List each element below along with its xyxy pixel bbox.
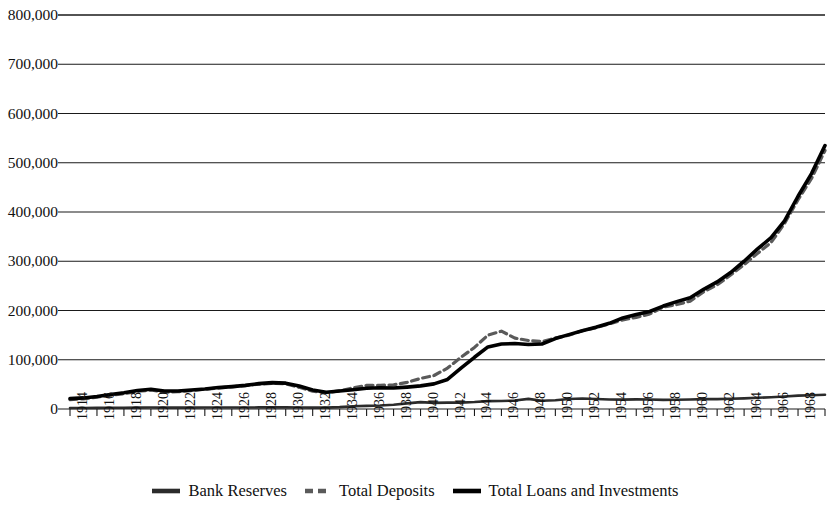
x-tick-label-1916: 1916 [103, 392, 117, 420]
x-tick-label-1958: 1958 [669, 392, 683, 420]
y-tick-label-600000: 600,000 [0, 106, 58, 122]
x-tick-label-1926: 1926 [238, 392, 252, 420]
line-chart: 800,000700,000600,000500,000400,000300,0… [0, 0, 830, 507]
y-tick-label-500000: 500,000 [0, 155, 58, 171]
x-tick-label-1968: 1968 [804, 392, 818, 420]
legend-label: Bank Reserves [188, 481, 287, 501]
x-tick-label-1918: 1918 [130, 392, 144, 420]
x-tick-label-1960: 1960 [696, 392, 710, 420]
x-tick-label-1944: 1944 [480, 392, 494, 420]
x-tick-label-1934: 1934 [346, 392, 360, 420]
x-tick-label-1952: 1952 [588, 392, 602, 420]
x-tick-label-1928: 1928 [265, 392, 279, 420]
legend-label: Total Loans and Investments [489, 481, 679, 501]
legend-item-bank-reserves[interactable]: Bank Reserves [151, 481, 287, 501]
x-tick-label-1940: 1940 [427, 392, 441, 420]
x-tick-label-1930: 1930 [292, 392, 306, 420]
legend-swatch-dashed-line-icon [304, 486, 332, 496]
x-tick-label-1936: 1936 [373, 392, 387, 420]
legend-swatch-solid-line-icon [452, 486, 482, 496]
y-tick-label-400000: 400,000 [0, 204, 58, 220]
x-tick-label-1950: 1950 [561, 392, 575, 420]
x-tick-label-1914: 1914 [76, 392, 90, 420]
legend-item-total-loans-and-investments[interactable]: Total Loans and Investments [452, 481, 679, 501]
x-tick-label-1922: 1922 [184, 392, 198, 420]
y-tick-label-800000: 800,000 [0, 7, 58, 23]
x-tick-label-1942: 1942 [454, 392, 468, 420]
chart-legend: Bank ReservesTotal DepositsTotal Loans a… [0, 478, 830, 504]
y-tick-label-700000: 700,000 [0, 56, 58, 72]
x-tick-label-1956: 1956 [642, 392, 656, 420]
x-tick-label-1924: 1924 [211, 392, 225, 420]
x-tick-label-1938: 1938 [400, 392, 414, 420]
series-line-total-loans-and-investments [70, 146, 825, 399]
x-tick-label-1932: 1932 [319, 392, 333, 420]
series-line-total-deposits [70, 150, 825, 399]
legend-label: Total Deposits [339, 481, 435, 501]
plot-area [0, 0, 830, 507]
legend-swatch-solid-line-icon [151, 486, 181, 496]
x-tick-label-1962: 1962 [723, 392, 737, 420]
x-tick-label-1946: 1946 [507, 392, 521, 420]
y-tick-label-300000: 300,000 [0, 253, 58, 269]
y-tick-label-0: 0 [0, 401, 58, 417]
x-tick-label-1920: 1920 [157, 392, 171, 420]
x-tick-label-1948: 1948 [534, 392, 548, 420]
y-tick-label-100000: 100,000 [0, 352, 58, 368]
y-tick-label-200000: 200,000 [0, 303, 58, 319]
x-tick-label-1964: 1964 [750, 392, 764, 420]
x-tick-label-1966: 1966 [777, 392, 791, 420]
x-tick-label-1954: 1954 [615, 392, 629, 420]
legend-item-total-deposits[interactable]: Total Deposits [304, 481, 435, 501]
